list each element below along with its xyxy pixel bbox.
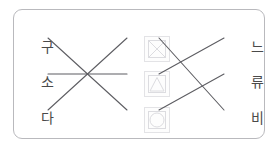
left-syllable-1[interactable]: 구 xyxy=(36,37,58,57)
right-syllable-1[interactable]: 느 xyxy=(246,37,268,57)
right-syllable-3[interactable]: 비 xyxy=(246,108,268,128)
matching-exercise-card: 구 소 다 xyxy=(13,9,265,139)
left-syllable-3[interactable]: 다 xyxy=(36,108,58,128)
circle-image-placeholder-icon xyxy=(145,108,169,132)
middle-image-box-2[interactable] xyxy=(144,71,170,97)
left-syllable-2[interactable]: 소 xyxy=(36,72,58,92)
middle-image-box-1[interactable] xyxy=(144,36,170,62)
exercise-stage: 구 소 다 xyxy=(0,0,277,150)
triangle-image-placeholder-icon xyxy=(145,72,169,96)
square-with-diagonals-image-placeholder-icon xyxy=(145,37,169,61)
right-syllable-2[interactable]: 류 xyxy=(246,72,268,92)
middle-image-box-3[interactable] xyxy=(144,107,170,133)
